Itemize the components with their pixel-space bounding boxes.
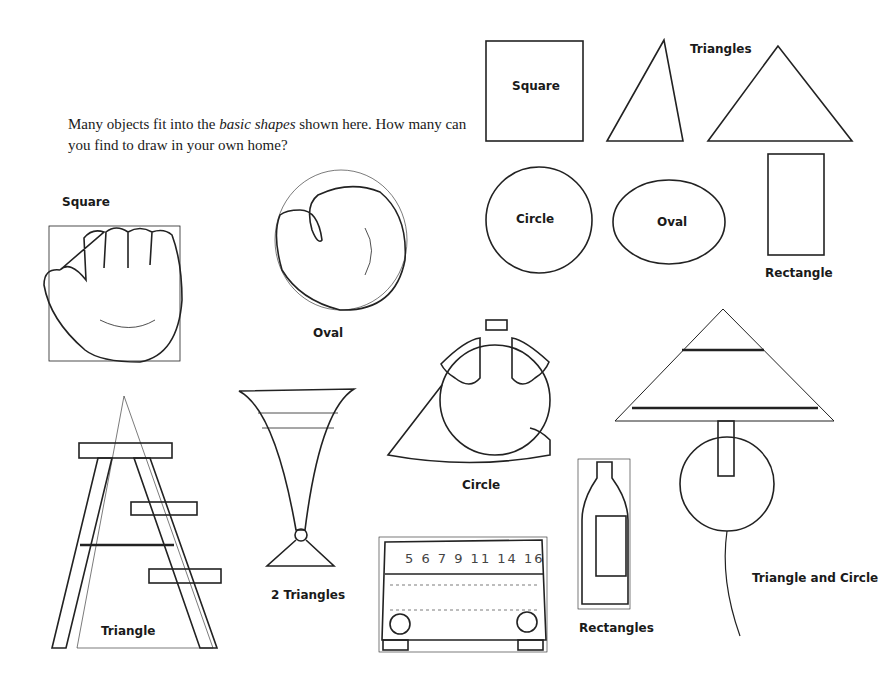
glove-label: Square (62, 195, 110, 209)
vase-drawing (239, 389, 354, 566)
canteen-label: Circle (462, 478, 500, 492)
wide-triangle-shape (708, 46, 852, 141)
lamp-drawing (615, 309, 834, 636)
stepladder-label: Triangle (101, 624, 155, 638)
baseball-glove-drawing (44, 226, 182, 362)
intro-emphasis: basic shapes (219, 116, 295, 132)
intro-paragraph: Many objects fit into the basic shapes s… (68, 114, 488, 156)
boxing-glove-label: Oval (313, 326, 343, 340)
square-shape-label: Square (512, 79, 560, 93)
lamp-label: Triangle and Circle (752, 571, 878, 585)
rectangle-shape (768, 154, 824, 255)
radio-dial-numbers: 5 6 7 9 11 14 16 (405, 551, 545, 566)
intro-text-start: Many objects fit into the (68, 116, 219, 132)
triangles-shape-label: Triangles (690, 42, 752, 56)
bottle-drawing (578, 459, 630, 609)
tall-triangle-shape (607, 40, 683, 141)
vase-label: 2 Triangles (271, 588, 345, 602)
bottle-label: Rectangles (579, 621, 654, 635)
stepladder-drawing (52, 396, 221, 648)
oval-shape-label: Oval (657, 215, 687, 229)
rectangle-shape-label: Rectangle (765, 266, 833, 280)
canteen-drawing (388, 320, 550, 463)
circle-shape-label: Circle (516, 212, 554, 226)
boxing-glove-drawing (275, 170, 407, 310)
